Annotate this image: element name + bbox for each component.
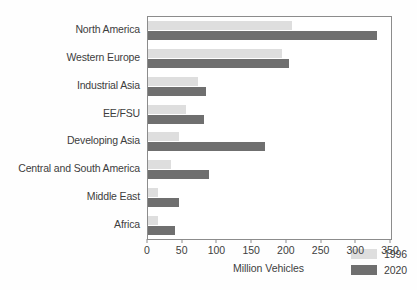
bar-2020 xyxy=(148,198,179,207)
x-tick-mark xyxy=(216,239,217,243)
bar-2020 xyxy=(148,226,175,235)
bar-1996 xyxy=(148,105,186,114)
category-label: North America xyxy=(75,24,140,35)
category-label: Central and South America xyxy=(18,163,140,174)
bar-1996 xyxy=(148,188,158,197)
x-tick-mark xyxy=(251,239,252,243)
x-tick-label: 200 xyxy=(277,244,295,256)
bar-2020 xyxy=(148,31,377,40)
x-tick-label: 300 xyxy=(347,244,365,256)
category-label: Industrial Asia xyxy=(77,80,140,91)
x-tick-mark xyxy=(355,239,356,243)
x-tick-label: 350 xyxy=(381,244,399,256)
category-label-row: Developing Asia xyxy=(0,127,144,155)
x-axis-title: Million Vehicles xyxy=(147,262,390,274)
x-tick-label: 150 xyxy=(242,244,260,256)
bar-group xyxy=(148,17,391,45)
bar-group xyxy=(148,211,391,239)
bar-1996 xyxy=(148,216,158,225)
bar-group xyxy=(148,73,391,101)
bar-2020 xyxy=(148,170,209,179)
x-tick-mark xyxy=(320,239,321,243)
x-tick-mark xyxy=(147,239,148,243)
category-label: Western Europe xyxy=(66,52,140,63)
plot-area xyxy=(147,16,392,240)
bar-1996 xyxy=(148,132,179,141)
bar-1996 xyxy=(148,21,292,30)
bar-2020 xyxy=(148,142,265,151)
x-tick-label: 0 xyxy=(144,244,150,256)
bar-2020 xyxy=(148,87,206,96)
category-label: Developing Asia xyxy=(67,135,140,146)
x-tick-mark xyxy=(181,239,182,243)
bars-layer xyxy=(148,17,391,239)
bar-group xyxy=(148,184,391,212)
bar-1996 xyxy=(148,77,198,86)
x-tick-label: 250 xyxy=(312,244,330,256)
bar-group xyxy=(148,45,391,73)
bar-2020 xyxy=(148,115,204,124)
x-tick-label: 50 xyxy=(176,244,188,256)
x-axis: 050100150200250300350 xyxy=(147,239,390,263)
category-label: Africa xyxy=(114,219,140,230)
bar-group xyxy=(148,100,391,128)
category-label-row: North America xyxy=(0,16,144,44)
category-axis: North AmericaWestern EuropeIndustrial As… xyxy=(0,16,144,238)
category-label-row: Industrial Asia xyxy=(0,72,144,100)
category-label-row: EE/FSU xyxy=(0,99,144,127)
x-tick-label: 100 xyxy=(208,244,226,256)
bar-chart: North AmericaWestern EuropeIndustrial As… xyxy=(0,0,417,290)
x-tick-mark xyxy=(285,239,286,243)
category-label-row: Western Europe xyxy=(0,44,144,72)
category-label-row: Africa xyxy=(0,210,144,238)
bar-group xyxy=(148,128,391,156)
bar-1996 xyxy=(148,49,282,58)
bar-group xyxy=(148,156,391,184)
category-label-row: Middle East xyxy=(0,183,144,211)
category-label: Middle East xyxy=(87,191,140,202)
x-tick-mark xyxy=(390,239,391,243)
bar-1996 xyxy=(148,160,171,169)
category-label-row: Central and South America xyxy=(0,155,144,183)
category-label: EE/FSU xyxy=(103,108,140,119)
bar-2020 xyxy=(148,59,289,68)
